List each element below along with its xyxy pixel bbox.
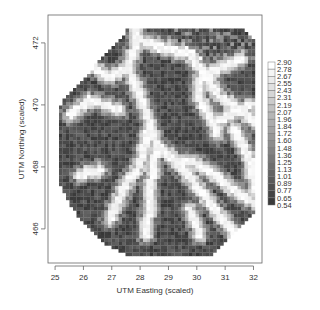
raster-cell bbox=[157, 172, 161, 176]
raster-cell bbox=[203, 123, 207, 127]
raster-cell bbox=[94, 158, 98, 162]
raster-cell bbox=[105, 242, 109, 246]
raster-cell bbox=[147, 32, 151, 36]
raster-cell bbox=[101, 232, 105, 236]
raster-cell bbox=[143, 32, 147, 36]
raster-cell bbox=[122, 53, 126, 57]
raster-cell bbox=[227, 228, 231, 232]
raster-cell bbox=[231, 71, 235, 75]
raster-cell bbox=[252, 190, 256, 194]
raster-cell bbox=[161, 99, 165, 103]
raster-cell bbox=[91, 179, 95, 183]
raster-cell bbox=[157, 148, 161, 152]
raster-cell bbox=[122, 123, 126, 127]
raster-cell bbox=[157, 218, 161, 222]
raster-cell bbox=[164, 137, 168, 141]
raster-cell bbox=[220, 242, 224, 246]
raster-cell bbox=[168, 158, 172, 162]
raster-cell bbox=[241, 29, 245, 33]
raster-cell bbox=[147, 193, 151, 197]
raster-cell bbox=[73, 197, 77, 201]
raster-cell bbox=[182, 176, 186, 180]
raster-cell bbox=[217, 29, 221, 33]
raster-cell bbox=[140, 148, 144, 152]
raster-cell bbox=[241, 186, 245, 190]
raster-cell bbox=[189, 99, 193, 103]
raster-cell bbox=[224, 46, 228, 50]
raster-cell bbox=[101, 67, 105, 71]
raster-cell bbox=[199, 193, 203, 197]
raster-cell bbox=[182, 141, 186, 145]
raster-cell bbox=[206, 253, 210, 257]
raster-cell bbox=[98, 214, 102, 218]
raster-cell bbox=[213, 106, 217, 110]
raster-cell bbox=[73, 169, 77, 173]
raster-cell bbox=[217, 137, 221, 141]
raster-cell bbox=[129, 36, 133, 40]
raster-cell bbox=[168, 165, 172, 169]
raster-cell bbox=[220, 78, 224, 82]
raster-cell bbox=[59, 130, 63, 134]
raster-cell bbox=[241, 120, 245, 124]
raster-cell bbox=[122, 242, 126, 246]
x-tick-label: 28 bbox=[136, 273, 145, 282]
raster-cell bbox=[241, 39, 245, 43]
raster-cell bbox=[59, 127, 63, 131]
raster-cell bbox=[248, 134, 252, 138]
raster-cell bbox=[206, 197, 210, 201]
raster-cell bbox=[171, 36, 175, 40]
raster-cell bbox=[161, 211, 165, 215]
raster-cell bbox=[248, 186, 252, 190]
raster-cell bbox=[234, 183, 238, 187]
raster-cell bbox=[234, 169, 238, 173]
raster-cell bbox=[129, 211, 133, 215]
raster-cell bbox=[150, 81, 154, 85]
raster-cell bbox=[150, 148, 154, 152]
raster-cell bbox=[157, 211, 161, 215]
raster-cell bbox=[73, 162, 77, 166]
raster-cell bbox=[84, 99, 88, 103]
raster-cell bbox=[227, 214, 231, 218]
raster-cell bbox=[122, 225, 126, 229]
raster-cell bbox=[199, 218, 203, 222]
raster-cell bbox=[210, 193, 214, 197]
raster-cell bbox=[87, 179, 91, 183]
raster-cell bbox=[245, 148, 249, 152]
raster-cell bbox=[122, 235, 126, 239]
raster-cell bbox=[143, 239, 147, 243]
raster-cell bbox=[220, 214, 224, 218]
raster-cell bbox=[231, 214, 235, 218]
raster-cell bbox=[59, 158, 63, 162]
raster-layer bbox=[59, 29, 255, 257]
raster-cell bbox=[175, 116, 179, 120]
raster-cell bbox=[122, 186, 126, 190]
raster-cell bbox=[112, 225, 116, 229]
raster-cell bbox=[178, 232, 182, 236]
raster-cell bbox=[175, 53, 179, 57]
raster-cell bbox=[175, 95, 179, 99]
raster-cell bbox=[115, 193, 119, 197]
raster-cell bbox=[150, 218, 154, 222]
raster-cell bbox=[112, 95, 116, 99]
raster-cell bbox=[98, 197, 102, 201]
raster-cell bbox=[227, 130, 231, 134]
raster-cell bbox=[122, 106, 126, 110]
raster-cell bbox=[182, 29, 186, 33]
raster-cell bbox=[122, 50, 126, 54]
raster-cell bbox=[182, 218, 186, 222]
raster-cell bbox=[129, 253, 133, 257]
raster-cell bbox=[206, 193, 210, 197]
raster-cell bbox=[105, 218, 109, 222]
raster-cell bbox=[164, 176, 168, 180]
raster-cell bbox=[189, 113, 193, 117]
raster-cell bbox=[119, 246, 123, 250]
raster-cell bbox=[87, 137, 91, 141]
raster-cell bbox=[157, 78, 161, 82]
raster-cell bbox=[101, 113, 105, 117]
raster-cell bbox=[94, 109, 98, 113]
raster-cell bbox=[234, 197, 238, 201]
raster-cell bbox=[133, 43, 137, 47]
raster-cell bbox=[161, 169, 165, 173]
raster-cell bbox=[119, 239, 123, 243]
raster-cell bbox=[133, 246, 137, 250]
